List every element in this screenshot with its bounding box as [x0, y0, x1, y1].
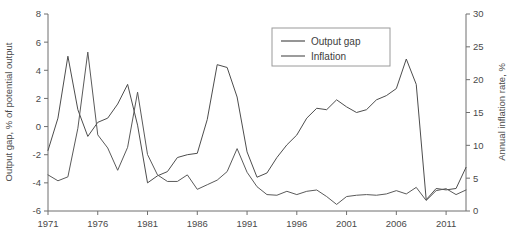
output-gap-inflation-chart: -6-4-202468 051015202530 197119761981198…: [0, 0, 514, 247]
x-axis-tick-label: 2001: [336, 218, 357, 229]
left-axis-tick-label: 4: [36, 65, 41, 76]
chart-legend: Output gapInflation: [272, 28, 390, 66]
x-axis-tick-label: 2011: [436, 218, 456, 229]
x-axis-tick-label: 1996: [286, 218, 307, 229]
x-axis-tick-label: 2006: [386, 218, 407, 229]
x-axis-tick-label: 1971: [37, 218, 58, 229]
right-axis-tick-label: 25: [473, 41, 484, 52]
right-axis-tick-label: 0: [473, 205, 478, 216]
legend-label-inflation: Inflation: [311, 51, 346, 62]
x-axis-tick-label: 1981: [137, 218, 158, 229]
left-axis-tick-label: -4: [33, 177, 41, 188]
series-line-inflation: [48, 52, 466, 204]
series-lines: [48, 52, 466, 204]
left-axis-tick-label: 2: [36, 93, 41, 104]
left-axis-tick-label: 0: [36, 121, 41, 132]
right-axis-title: Annual inflation rate, %: [496, 63, 507, 161]
left-axis-tick-label: 6: [36, 37, 41, 48]
x-axis-tick-label: 1991: [236, 218, 257, 229]
right-axis: 051015202530: [466, 8, 484, 216]
x-axis-tick-label: 1986: [187, 218, 208, 229]
right-axis-tick-label: 15: [473, 107, 484, 118]
left-axis-tick-label: -2: [33, 149, 41, 160]
right-axis-tick-label: 5: [473, 173, 478, 184]
x-axis: 197119761981198619911996200120062011: [37, 211, 466, 229]
left-axis: -6-4-202468: [33, 8, 48, 216]
chart-canvas: -6-4-202468 051015202530 197119761981198…: [0, 0, 514, 247]
right-axis-tick-label: 10: [473, 140, 484, 151]
left-axis-title: Output gap, % of potential output: [3, 42, 14, 181]
left-axis-tick-label: -6: [33, 205, 41, 216]
legend-label-output-gap: Output gap: [311, 36, 361, 47]
right-axis-tick-label: 20: [473, 74, 484, 85]
left-axis-tick-label: 8: [36, 8, 41, 19]
x-axis-tick-label: 1976: [87, 218, 108, 229]
series-line-output-gap: [48, 56, 466, 200]
right-axis-tick-label: 30: [473, 8, 484, 19]
